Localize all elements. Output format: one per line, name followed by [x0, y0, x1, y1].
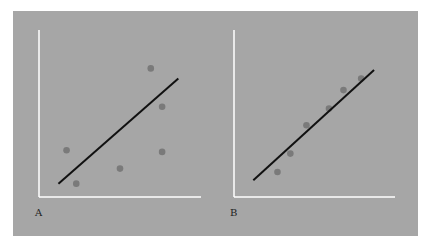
- chart-figure: A B: [0, 0, 429, 246]
- data-point-b-3: [303, 122, 310, 129]
- data-point-a-1: [63, 147, 70, 154]
- data-point-a-6: [159, 149, 166, 156]
- scatter-panel-b: B: [230, 30, 395, 218]
- scatter-panel-a: A: [34, 30, 201, 218]
- data-point-b-5: [340, 87, 347, 94]
- panel-label-b: B: [230, 207, 237, 218]
- data-point-a-4: [147, 65, 154, 72]
- data-point-a-2: [73, 180, 80, 187]
- regression-line-b: [253, 70, 374, 180]
- data-point-a-5: [159, 104, 166, 111]
- data-point-b-1: [274, 169, 281, 176]
- panel-label-a: A: [34, 207, 43, 218]
- data-point-a-3: [117, 165, 124, 172]
- data-point-b-2: [287, 150, 294, 157]
